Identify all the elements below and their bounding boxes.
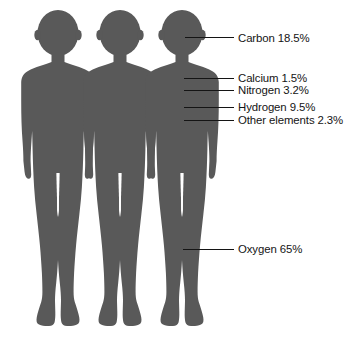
callout-label-nitrogen: Nitrogen 3.2% — [238, 84, 309, 96]
silhouette-figure-3 — [145, 10, 219, 326]
body-composition-infographic: Carbon 18.5%Calcium 1.5%Nitrogen 3.2%Hyd… — [0, 0, 345, 341]
callout-label-oxygen: Oxygen 65% — [238, 243, 302, 255]
callout-label-carbon: Carbon 18.5% — [238, 32, 310, 44]
silhouette-group — [21, 10, 219, 326]
silhouette-figure-2 — [83, 10, 157, 326]
callout-label-hydrogen: Hydrogen 9.5% — [238, 101, 315, 113]
callout-label-other-elements: Other elements 2.3% — [238, 114, 343, 126]
callout-label-calcium: Calcium 1.5% — [238, 72, 307, 84]
silhouette-figure-1 — [21, 10, 95, 326]
human-figures-illustration — [0, 0, 345, 341]
